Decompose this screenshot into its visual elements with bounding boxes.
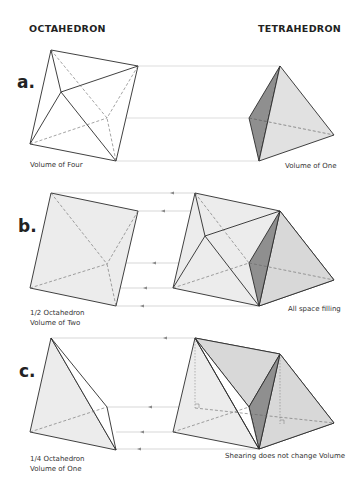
sheared-c xyxy=(173,338,334,449)
octahedron-a xyxy=(30,50,138,161)
tetrahedron-a xyxy=(249,66,334,161)
arrowheads-c xyxy=(137,337,167,451)
half-octahedron-b xyxy=(30,193,138,306)
arrowheads-b xyxy=(140,192,174,308)
space-filling-b xyxy=(173,193,334,306)
quarter-octahedron-c xyxy=(30,338,116,450)
diagram-canvas xyxy=(0,0,359,490)
